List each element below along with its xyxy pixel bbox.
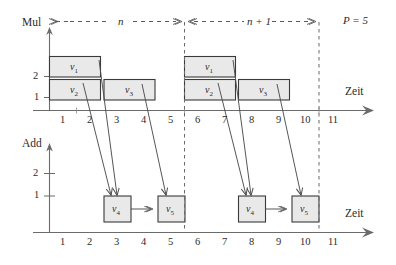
block-label-v1a: v1 <box>70 62 78 75</box>
block-label-v4b-sub: 4 <box>250 209 254 217</box>
mul-xtick-3: 3 <box>114 115 119 126</box>
diagram-canvas <box>0 0 396 265</box>
block-label-v5b-sub: 5 <box>304 209 308 217</box>
add-xtick-1: 1 <box>60 237 65 248</box>
add-xtick-4: 4 <box>141 237 146 248</box>
add-xtick-5: 5 <box>168 237 173 248</box>
mul-xtick-7: 7 <box>222 115 227 126</box>
mul-xtick-5: 5 <box>168 115 173 126</box>
block-label-v3b: v3 <box>259 85 267 98</box>
mul-xtick-11: 11 <box>328 115 338 126</box>
add-xtick-7: 7 <box>222 237 227 248</box>
block-label-v4a: v4 <box>112 204 120 217</box>
mul-ytick-1: 1 <box>34 92 39 103</box>
add-time-axis <box>33 227 374 237</box>
edge-v3a-v5a <box>142 84 166 195</box>
schedule-diagram: Mul Add n n + 1 P = 5 Zeit Zeit 2 1 2 1 … <box>0 0 396 265</box>
mul-xtick-9: 9 <box>276 115 281 126</box>
block-label-v1b: v1 <box>205 62 213 75</box>
phase-span-n <box>49 19 182 25</box>
block-label-v5b: v5 <box>300 204 308 217</box>
add-xtick-6: 6 <box>195 237 200 248</box>
mul-xtick-1: 1 <box>60 115 65 126</box>
mul-xtick-6: 6 <box>195 115 200 126</box>
add-ytick-1: 1 <box>34 190 39 201</box>
add-ytick-2: 2 <box>33 168 38 179</box>
block-label-v5a: v5 <box>166 204 174 217</box>
block-label-v5a-sub: 5 <box>170 209 174 217</box>
add-xtick-8: 8 <box>249 237 254 248</box>
initiation-interval-annotation: P = 5 <box>343 15 368 26</box>
phase-label-n: n <box>118 16 124 27</box>
mul-time-label: Zeit <box>345 86 364 98</box>
add-xtick-2: 2 <box>87 237 92 248</box>
mul-ytick-2: 2 <box>33 71 38 82</box>
add-axis-label: Add <box>22 138 42 150</box>
phase-label-n-plus-1: n + 1 <box>247 16 271 27</box>
add-xtick-11: 11 <box>328 237 338 248</box>
block-label-v2b-sub: 2 <box>209 90 213 98</box>
block-label-v3b-sub: 3 <box>263 90 267 98</box>
mul-xtick-8: 8 <box>249 115 254 126</box>
block-label-v4b: v4 <box>246 204 254 217</box>
add-xtick-9: 9 <box>276 237 281 248</box>
add-time-label: Zeit <box>345 208 364 220</box>
edge-v3b-v5b <box>277 84 301 195</box>
add-xtick-3: 3 <box>114 237 119 248</box>
block-label-v4a-sub: 4 <box>116 209 120 217</box>
mul-axis-label: Mul <box>22 17 41 29</box>
block-label-v2b: v2 <box>205 85 213 98</box>
mul-xtick-10: 10 <box>300 115 311 126</box>
block-label-v3a-sub: 3 <box>129 90 133 98</box>
mul-xtick-2: 2 <box>87 115 92 126</box>
block-label-v1a-sub: 1 <box>74 67 78 75</box>
block-label-v3a: v3 <box>125 85 133 98</box>
mul-time-axis <box>33 105 374 115</box>
block-label-v2a-sub: 2 <box>74 90 78 98</box>
block-label-v2a: v2 <box>70 85 78 98</box>
mul-xtick-4: 4 <box>141 115 146 126</box>
block-label-v1b-sub: 1 <box>209 67 213 75</box>
add-y-axis <box>44 143 55 232</box>
add-xtick-10: 10 <box>300 237 311 248</box>
